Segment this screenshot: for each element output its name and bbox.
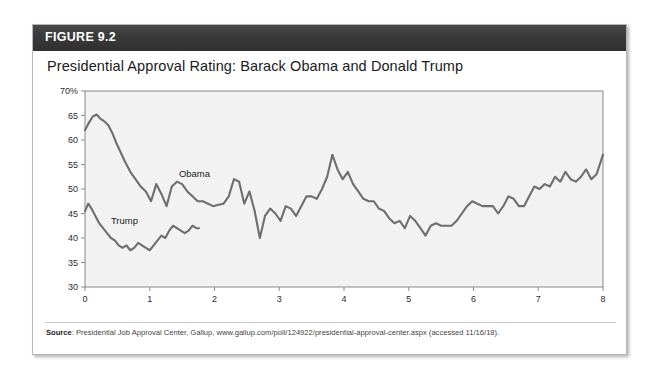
x-axis-tick-label: 2 xyxy=(212,294,217,304)
series-label-trump: Trump xyxy=(111,215,138,226)
x-axis-tick-label: 7 xyxy=(536,294,541,304)
figure-card: FIGURE 9.2 Presidential Approval Rating:… xyxy=(32,24,627,355)
y-axis-tick-label: 70% xyxy=(60,86,78,96)
y-axis-tick-label: 40 xyxy=(68,233,78,243)
x-axis-tick-label: 1 xyxy=(147,294,152,304)
x-axis-tick-label: 6 xyxy=(471,294,476,304)
source-label: Source xyxy=(46,328,72,337)
y-axis-tick-label: 50 xyxy=(68,184,78,194)
source-divider xyxy=(45,322,616,323)
page-title: Presidential Approval Rating: Barack Oba… xyxy=(47,58,463,74)
y-axis-tick-label: 60 xyxy=(68,135,78,145)
x-axis-tick-label: 3 xyxy=(277,294,282,304)
plot-background xyxy=(85,91,603,287)
x-axis-tick-label: 5 xyxy=(406,294,411,304)
y-axis-tick-label: 55 xyxy=(68,160,78,170)
figure-number-label: FIGURE 9.2 xyxy=(45,30,116,44)
x-axis-tick-label: 4 xyxy=(341,294,346,304)
source-text: : Presidential Job Approval Center, Gall… xyxy=(72,328,499,337)
x-axis-ticks: 012345678 xyxy=(82,287,605,304)
x-axis-tick-label: 0 xyxy=(82,294,87,304)
source-note: Source: Presidential Job Approval Center… xyxy=(46,328,621,338)
y-axis-tick-label: 35 xyxy=(68,258,78,268)
y-axis-tick-label: 30 xyxy=(68,282,78,292)
approval-rating-line-chart: 70%6560555045403530 012345678 ObamaTrump xyxy=(33,83,628,323)
y-axis-tick-label: 45 xyxy=(68,209,78,219)
chart-plot-region: 70%6560555045403530 012345678 ObamaTrump xyxy=(33,83,626,323)
y-axis-ticks: 70%6560555045403530 xyxy=(60,86,85,292)
x-axis-tick-label: 8 xyxy=(600,294,605,304)
figure-header-bar: FIGURE 9.2 xyxy=(33,25,626,51)
y-axis-tick-label: 65 xyxy=(68,111,78,121)
series-label-obama: Obama xyxy=(179,168,211,179)
